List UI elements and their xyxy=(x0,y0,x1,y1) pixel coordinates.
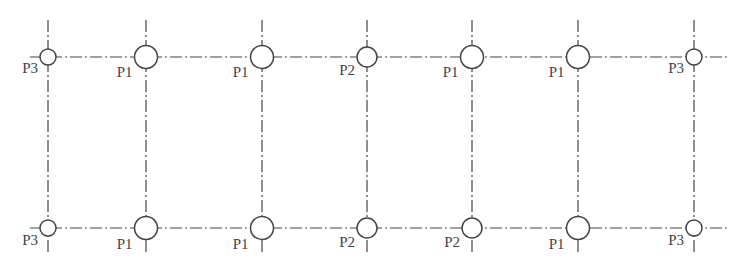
pile-label: P2 xyxy=(339,234,355,250)
pile-label: P3 xyxy=(668,232,684,248)
pile-marker-p1 xyxy=(567,217,590,240)
pile-marker-p3 xyxy=(686,49,702,65)
pile-marker-p3 xyxy=(686,220,702,236)
pile-label: P3 xyxy=(22,60,38,76)
pile-label: P1 xyxy=(233,64,249,80)
pile-label: P1 xyxy=(233,236,249,252)
pile-label: P1 xyxy=(443,64,459,80)
pile-label: P1 xyxy=(117,236,133,252)
pile-marker-p2 xyxy=(357,218,377,238)
pile-marker-p1 xyxy=(461,46,484,69)
pile-label: P3 xyxy=(22,232,38,248)
pile-label: P1 xyxy=(549,64,565,80)
pile-marker-p3 xyxy=(40,220,56,236)
pile-marker-p1 xyxy=(567,46,590,69)
pile-marker-p1 xyxy=(251,217,274,240)
pile-label: P3 xyxy=(668,60,684,76)
pile-marker-p2 xyxy=(462,218,482,238)
pile-marker-p1 xyxy=(135,46,158,69)
pile-label: P2 xyxy=(444,234,460,250)
pile-label: P1 xyxy=(549,236,565,252)
pile-label: P1 xyxy=(117,64,133,80)
pile-marker-p3 xyxy=(40,49,56,65)
pile-marker-p2 xyxy=(357,47,377,67)
pile-layout-diagram: P3P1P1P2P1P1P3P3P1P1P2P2P1P3 xyxy=(0,0,744,267)
pile-label: P2 xyxy=(339,62,355,78)
pile-marker-p1 xyxy=(135,217,158,240)
pile-marker-p1 xyxy=(251,46,274,69)
